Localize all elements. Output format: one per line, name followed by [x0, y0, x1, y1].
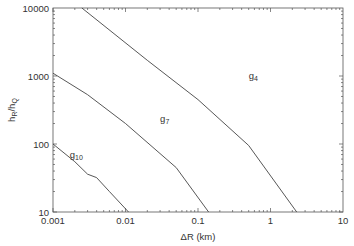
y-tick-label: 10000 — [23, 3, 49, 14]
y-axis-label: hR/hQ — [6, 98, 19, 122]
plot-frame — [53, 8, 343, 212]
y-tick-label: 10 — [38, 207, 49, 218]
series-lines — [53, 8, 297, 212]
y-axis-ticks: 10100100010000 — [23, 3, 343, 218]
y-tick-label: 1000 — [28, 71, 49, 82]
curve-labels: g4g7g10 — [70, 70, 258, 161]
x-tick-label: 0.1 — [191, 215, 204, 226]
x-tick-label: 10 — [338, 215, 349, 226]
line-g7 — [53, 73, 209, 212]
x-tick-label: 1 — [268, 215, 273, 226]
y-tick-label: 100 — [33, 139, 49, 150]
label-g7: g7 — [160, 113, 169, 125]
plot-border — [53, 8, 343, 212]
label-g10: g10 — [70, 149, 83, 161]
chart: 0.0010.010.1110 10100100010000 g4g7g10 Δ… — [0, 0, 354, 246]
x-axis-label: ΔR (km) — [181, 231, 216, 242]
line-g4 — [82, 8, 297, 212]
line-g10 — [53, 144, 129, 212]
label-g4: g4 — [249, 70, 258, 82]
x-tick-label: 0.01 — [116, 215, 135, 226]
